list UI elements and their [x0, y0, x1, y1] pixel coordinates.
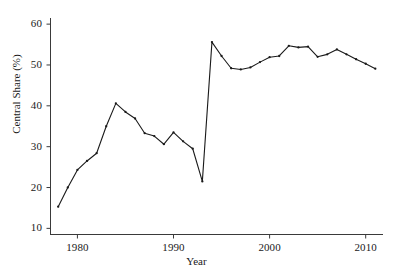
data-point-marker — [67, 186, 69, 188]
x-tick-label: 2010 — [341, 242, 391, 253]
data-point-marker — [249, 66, 251, 68]
y-tick-label: 10 — [10, 222, 42, 233]
data-point-marker — [336, 48, 338, 50]
data-point-marker — [105, 125, 107, 127]
data-point-marker — [163, 143, 165, 145]
data-point-marker — [86, 160, 88, 162]
data-point-marker — [317, 56, 319, 58]
y-tick-label: 60 — [10, 18, 42, 29]
data-point-marker — [95, 152, 97, 154]
x-tick-label: 1980 — [52, 242, 102, 253]
data-point-marker — [182, 140, 184, 142]
data-point-marker — [115, 102, 117, 104]
data-point-marker — [278, 55, 280, 57]
data-point-marker — [153, 135, 155, 137]
data-point-marker — [144, 132, 146, 134]
data-point-marker — [259, 61, 261, 63]
data-point-marker — [57, 206, 59, 208]
y-axis-ticks — [47, 24, 51, 228]
data-point-marker — [355, 58, 357, 60]
data-point-marker — [134, 117, 136, 119]
x-axis-ticks — [77, 235, 365, 239]
x-axis-title: Year — [0, 255, 393, 267]
axes-lines — [51, 18, 384, 235]
data-point-marker — [365, 63, 367, 65]
data-point-marker — [297, 46, 299, 48]
data-point-markers — [57, 41, 376, 208]
data-point-marker — [374, 68, 376, 70]
data-point-marker — [76, 169, 78, 171]
y-axis-title: Central Share (%) — [10, 34, 22, 154]
data-point-marker — [211, 41, 213, 43]
chart-figure: 102030405060 1980199020002010 Year Centr… — [0, 0, 393, 275]
data-point-marker — [288, 45, 290, 47]
data-point-marker — [230, 67, 232, 69]
data-point-marker — [172, 131, 174, 133]
x-tick-label: 2000 — [245, 242, 295, 253]
data-point-marker — [201, 180, 203, 182]
data-point-marker — [326, 53, 328, 55]
data-point-marker — [307, 45, 309, 47]
data-point-marker — [124, 111, 126, 113]
data-point-marker — [268, 56, 270, 58]
x-tick-label: 1990 — [149, 242, 199, 253]
chart-plot-area — [0, 0, 393, 275]
y-tick-label: 20 — [10, 182, 42, 193]
data-point-marker — [192, 148, 194, 150]
data-point-marker — [345, 53, 347, 55]
data-point-marker — [240, 68, 242, 70]
data-line-central-share — [58, 42, 375, 207]
data-point-marker — [220, 55, 222, 57]
